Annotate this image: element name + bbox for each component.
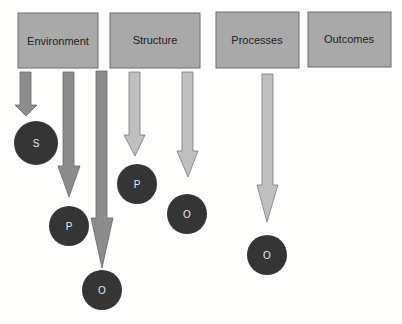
node-s-environment: S [14,121,58,165]
box-label: Outcomes [324,33,375,45]
node-p-environment: P [49,206,89,246]
box-environment: Environment [18,13,98,68]
node-label: O [98,285,106,296]
arrow-structure-to-p [124,72,145,156]
box-label: Structure [133,34,178,46]
arrow-structure-to-o [177,72,198,177]
box-outcomes: Outcomes [308,12,391,67]
box-label: Processes [231,34,283,46]
node-label: P [66,221,73,232]
node-label: O [263,250,271,261]
node-label: P [134,179,141,190]
box-structure: Structure [110,13,200,68]
node-p-structure: P [117,164,157,204]
donabedian-diagram: Environment Structure Processes Outcomes… [0,0,402,324]
arrow-environment-to-s [15,72,37,116]
node-o-processes: O [247,235,287,275]
box-processes: Processes [216,12,299,68]
arrow-environment-to-o [91,71,113,268]
arrow-processes-to-o [257,74,278,222]
node-o-structure: O [167,194,207,234]
node-label: S [33,138,40,149]
node-o-environment: O [82,270,122,310]
node-label: O [183,209,191,220]
box-label: Environment [27,35,89,47]
arrow-environment-to-p [58,72,80,197]
